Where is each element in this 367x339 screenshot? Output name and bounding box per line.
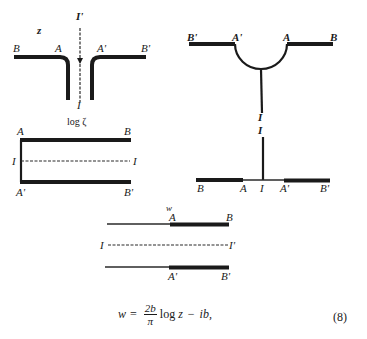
label-I-left: I: [11, 155, 17, 167]
equation-number: (8): [333, 310, 347, 325]
right-wall-boundary: [92, 57, 146, 100]
label-A-prime: A': [167, 270, 178, 282]
label-B: B: [13, 42, 20, 54]
eq-tail: ib,: [200, 307, 212, 322]
label-I-top: I: [257, 124, 263, 136]
eq-minus: −: [188, 307, 195, 322]
vertical-flow-line: [261, 69, 262, 113]
eq-fraction: 2b π: [144, 302, 157, 327]
label-A-prime: A': [15, 186, 26, 198]
equation: w = 2b π log z − ib,: [118, 302, 212, 327]
conformal-map-figure: z I' B A A' B' I log ζ A B I I A' B' B' …: [0, 0, 367, 339]
label-A: A: [16, 125, 24, 137]
label-I-prime: I': [228, 239, 236, 251]
label-B-prime: B': [320, 182, 330, 194]
eq-var: z: [178, 307, 183, 322]
label-I-right: I: [132, 155, 138, 167]
label-I: I: [99, 239, 105, 251]
log-zeta-label: log ζ: [67, 116, 86, 128]
eq-equals: =: [130, 307, 137, 322]
label-B-prime: B': [221, 270, 231, 282]
label-A: A: [168, 211, 176, 223]
w-plane-panel: w A B I I' A' B': [99, 203, 236, 282]
eq-log: log: [160, 307, 175, 322]
label-B-prime: B': [124, 186, 134, 198]
real-axis-panel: I B A I A' B': [196, 124, 330, 194]
z-plane-panel: z I' B A A' B' I: [13, 10, 151, 111]
label-I: I: [259, 182, 265, 194]
label-A-prime: A': [279, 182, 290, 194]
label-B: B: [226, 211, 233, 223]
label-B: B: [329, 31, 337, 43]
label-B-prime: B': [186, 31, 197, 43]
z-plane-label: z: [36, 24, 42, 36]
label-A: A: [54, 42, 62, 54]
semicircle-panel: B' A' A B I: [186, 31, 337, 123]
log-zeta-panel: log ζ A B I I A' B': [11, 116, 138, 198]
semicircle-boundary: [235, 44, 287, 69]
label-A: A: [239, 182, 247, 194]
eq-frac-numerator: 2b: [144, 302, 157, 315]
label-B: B: [124, 125, 131, 137]
label-I: I: [76, 99, 82, 111]
left-wall-boundary: [14, 57, 68, 100]
label-A: A: [282, 31, 290, 43]
label-A-prime: A': [231, 31, 242, 43]
eq-lhs: w: [118, 307, 126, 322]
eq-frac-denominator: π: [148, 315, 154, 327]
label-B-prime: B': [141, 42, 151, 54]
arrow-down-icon: [77, 58, 83, 64]
label-A-prime: A': [96, 42, 107, 54]
label-I: I: [257, 111, 263, 123]
label-I-prime: I': [75, 10, 83, 22]
label-B: B: [197, 182, 204, 194]
